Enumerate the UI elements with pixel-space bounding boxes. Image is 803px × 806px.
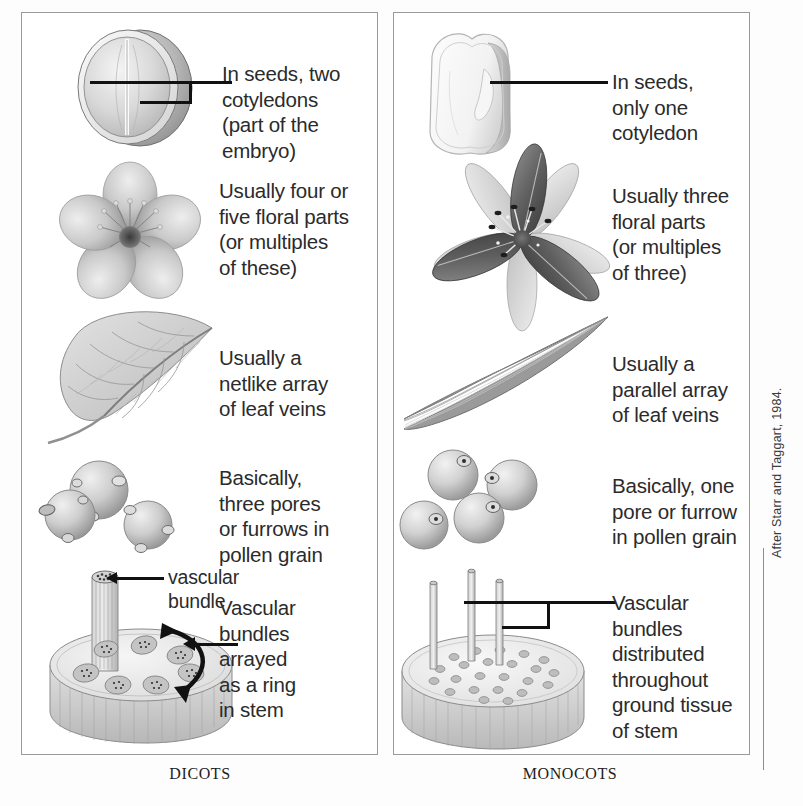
monocot-seed-illustration — [410, 23, 530, 163]
caption-line: Usually a — [219, 345, 328, 371]
caption-line: or furrows in — [219, 516, 329, 542]
monocot-stem-illustration — [396, 561, 611, 751]
caption-line: three pores — [219, 491, 329, 517]
caption-line: five floral parts — [219, 204, 349, 230]
dicot-leaf-illustration — [34, 298, 224, 448]
caption-line: of leaf veins — [219, 396, 328, 422]
caption-line: ground tissue — [612, 692, 732, 718]
caption-line: bundles — [612, 616, 732, 642]
leader-arrowhead-vascular-bundle — [106, 572, 117, 584]
leader-line-seed-lower — [140, 101, 192, 104]
caption-line: Usually a — [612, 351, 728, 377]
monocot-leaf-illustration — [402, 301, 617, 441]
caption-line: of three) — [612, 260, 729, 286]
caption-line: (or multiples — [219, 229, 349, 255]
caption-dicot-stem: Vascular bundles arrayed as a ring in st… — [219, 595, 296, 723]
caption-line: in pollen grain — [612, 524, 737, 550]
leader-line-seed-upper — [90, 81, 232, 84]
caption-line: only one — [612, 95, 698, 121]
caption-line: In seeds, — [612, 69, 698, 95]
caption-line: bundles — [219, 621, 296, 647]
caption-line: Basically, — [219, 465, 329, 491]
caption-line: Usually three — [612, 183, 729, 209]
dicot-flower-illustration — [50, 161, 210, 301]
caption-line: In seeds, two — [222, 61, 340, 87]
caption-line: Usually four or — [219, 178, 349, 204]
caption-line: throughout — [612, 667, 732, 693]
panel-label-dicots: DICOTS — [70, 765, 330, 783]
caption-line: arrayed — [219, 646, 296, 672]
attribution-text: After Starr and Taggart, 1984. — [770, 338, 784, 558]
leader-line-monocot-stem-lower — [502, 626, 550, 629]
leader-line-vascular-bundle — [114, 577, 164, 580]
caption-monocot-pollen: Basically, one pore or furrow in pollen … — [612, 473, 737, 550]
leader-arrowhead-dicot-stem — [183, 637, 195, 651]
caption-dicot-seed: In seeds, two cotyledons (part of the em… — [222, 61, 340, 163]
leader-line-monocot-seed — [490, 81, 608, 84]
caption-line: of stem — [612, 718, 732, 744]
caption-dicot-leaf: Usually a netlike array of leaf veins — [219, 345, 328, 422]
caption-monocot-leaf: Usually a parallel array of leaf veins — [612, 351, 728, 428]
label-line: vascular — [168, 565, 239, 589]
panel-dicots: In seeds, two cotyledons (part of the em… — [21, 12, 378, 755]
panel-label-monocots: MONOCOTS — [440, 765, 700, 783]
caption-line: (or multiples — [612, 234, 729, 260]
caption-line: embryo) — [222, 138, 340, 164]
dicot-pollen-illustration — [37, 453, 192, 558]
dicot-monocot-comparison-figure: In seeds, two cotyledons (part of the em… — [0, 0, 803, 806]
caption-monocot-seed: In seeds, only one cotyledon — [612, 69, 698, 146]
caption-line: Vascular — [612, 590, 732, 616]
monocot-pollen-illustration — [406, 445, 576, 555]
caption-monocot-flower: Usually three floral parts (or multiples… — [612, 183, 729, 285]
caption-line: Basically, one — [612, 473, 737, 499]
caption-line: netlike array — [219, 371, 328, 397]
caption-line: of leaf veins — [612, 402, 728, 428]
caption-monocot-stem: Vascular bundles distributed throughout … — [612, 590, 732, 743]
caption-line: as a ring — [219, 672, 296, 698]
caption-dicot-pollen: Basically, three pores or furrows in pol… — [219, 465, 329, 567]
attribution-divider — [763, 548, 764, 770]
caption-line: distributed — [612, 641, 732, 667]
caption-line: floral parts — [612, 209, 729, 235]
leader-line-seed-joint — [189, 81, 192, 104]
caption-line: parallel array — [612, 377, 728, 403]
leader-line-monocot-stem-upper — [464, 601, 616, 604]
caption-dicot-flower: Usually four or five floral parts (or mu… — [219, 178, 349, 280]
monocot-flower-illustration — [432, 155, 612, 305]
caption-line: Vascular — [219, 595, 296, 621]
caption-line: cotyledons — [222, 87, 340, 113]
dicot-seed-illustration — [70, 25, 200, 150]
caption-line: cotyledon — [612, 120, 698, 146]
caption-line: (part of the — [222, 112, 340, 138]
caption-line: in stem — [219, 697, 296, 723]
panel-monocots: In seeds, only one cotyledon — [393, 12, 750, 755]
caption-line: of these) — [219, 255, 349, 281]
caption-line: pore or furrow — [612, 499, 737, 525]
leader-line-monocot-stem-joint — [547, 601, 550, 629]
